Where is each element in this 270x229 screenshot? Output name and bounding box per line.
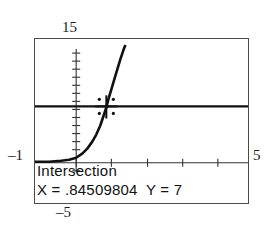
- y-min-label: –5: [56, 205, 71, 220]
- x-min-label: –1: [8, 148, 23, 163]
- intersection-cursor-icon: [95, 95, 117, 118]
- calculator-screen-frame: Intersection X = .84509804 Y = 7: [34, 38, 249, 204]
- calculator-screenshot: 15 –1 5 –5: [0, 0, 270, 229]
- readout-title: Intersection: [37, 161, 248, 180]
- y-max-label: 15: [62, 20, 77, 35]
- x-max-label: 5: [253, 148, 261, 163]
- readout-values: X = .84509804 Y = 7: [37, 180, 248, 199]
- intersection-readout: Intersection X = .84509804 Y = 7: [37, 161, 248, 199]
- exponential-curve-series: [35, 45, 125, 162]
